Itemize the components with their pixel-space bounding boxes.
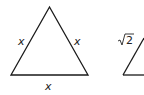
equilateral-triangle: x x x bbox=[11, 7, 88, 93]
side-label-left: x bbox=[17, 35, 25, 48]
sqrt-two-label: 2 bbox=[118, 34, 134, 47]
geometry-figure: x x x 2 bbox=[0, 0, 144, 95]
partial-triangle: 2 bbox=[118, 34, 144, 75]
side-label-right: x bbox=[73, 35, 81, 48]
side-label-bottom: x bbox=[44, 80, 52, 93]
side-label-radicand: 2 bbox=[126, 34, 133, 47]
